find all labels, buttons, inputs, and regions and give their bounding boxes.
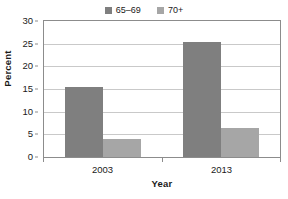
legend-swatch-70-plus [157,7,164,14]
y-axis-tick-label: 25 [22,39,33,49]
x-axis-title: Year [43,178,281,189]
bars-layer [44,21,280,157]
x-axis-group-2003: 2003 [43,158,162,178]
y-axis-tick-mark [35,89,38,90]
y-axis-tick-label: 0 [28,152,33,162]
x-axis-tick-label: 2003 [43,165,162,175]
x-axis-ticks: 20032013 [43,158,281,178]
legend-label-70-plus: 70+ [168,6,183,15]
y-axis-tick-mark [35,43,38,44]
bar-2013-65-69 [183,42,221,157]
x-axis-group-2013: 2013 [162,158,281,178]
bar-group-2013 [162,21,280,157]
y-axis-tick-label: 20 [22,62,33,72]
y-axis-tick-label: 5 [28,130,33,140]
y-axis-tick-mark [35,21,38,22]
y-axis-tick-label: 30 [22,16,33,26]
bar-group-2003 [44,21,162,157]
legend-entry-65-69: 65–69 [105,6,141,15]
y-axis-tick-mark [35,66,38,67]
bar-chart: 65–69 70+ 302520151050 Percent 20032013 … [0,0,288,199]
legend-label-65-69: 65–69 [116,6,141,15]
legend-entry-70-plus: 70+ [157,6,183,15]
legend-swatch-65-69 [105,7,112,14]
y-axis-tick-mark [35,111,38,112]
y-axis-tick-mark [35,134,38,135]
chart-legend: 65–69 70+ [0,3,288,17]
y-axis-tick-mark [35,157,38,158]
x-axis-tick-label: 2013 [162,165,281,175]
bar-2013-70+ [221,128,259,157]
bar-2003-70+ [103,139,141,157]
plot-area [43,20,281,158]
x-axis-tick-mark [43,158,44,162]
x-axis-tick-mark [280,158,281,162]
y-axis-title: Percent [2,34,13,104]
y-axis-tick-label: 10 [22,107,33,117]
x-axis-tick-mark [162,158,163,162]
bar-2003-65-69 [65,87,103,157]
y-axis-tick-label: 15 [22,84,33,94]
